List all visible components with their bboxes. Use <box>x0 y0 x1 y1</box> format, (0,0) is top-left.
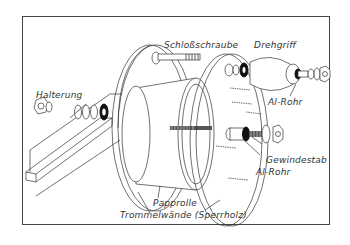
label-trommelwaende: Trommelwände (Sperrholz) <box>120 210 247 220</box>
left-nut-washers <box>34 97 108 120</box>
lower-axle-assembly <box>226 125 283 143</box>
label-al-rohr-bottom: Al-Rohr <box>255 167 292 177</box>
label-al-rohr-top: Al-Rohr <box>267 97 304 107</box>
assembly-drawing: Halterung Schloßschraube Drehgriff Al-Ro… <box>0 0 350 245</box>
label-halterung: Halterung <box>36 90 83 100</box>
label-schlossschraube: Schloßschraube <box>164 40 239 50</box>
handle-drehgriff <box>250 57 330 90</box>
cardboard-roll-papprolle <box>122 78 214 190</box>
label-drehgriff: Drehgriff <box>254 40 298 50</box>
label-gewindestab: Gewindestab <box>266 155 327 165</box>
threaded-rod-center <box>170 126 212 130</box>
label-papprolle: Papprolle <box>153 198 197 208</box>
carriage-bolt <box>152 52 200 64</box>
handle-washers <box>225 63 248 77</box>
